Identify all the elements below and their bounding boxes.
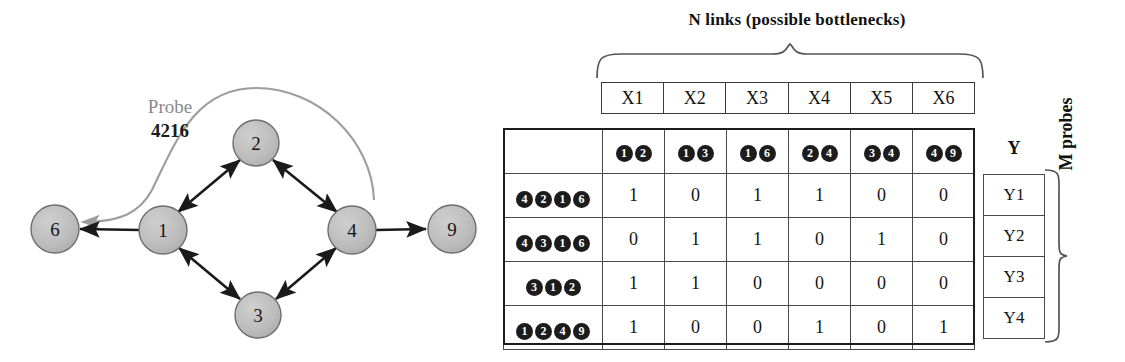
matrix-col-header-1: 12: [603, 129, 665, 174]
table-row: 4216 1 0 1 1 0 0: [504, 174, 975, 218]
y-cell: Y4: [984, 298, 1045, 339]
circled-number: 3: [535, 235, 552, 252]
graph-node-9[interactable]: 9: [428, 205, 476, 253]
m-probes-label: M probes: [1056, 64, 1076, 204]
matrix-cell: 1: [603, 306, 665, 350]
x-header-strip: X1 X2 X3 X4 X5 X6: [601, 82, 975, 114]
circled-number: 1: [554, 191, 571, 208]
graph-node-2-label: 2: [251, 133, 261, 154]
circled-number: 4: [516, 191, 533, 208]
matrix-cell: 0: [665, 174, 727, 218]
y-cell: Y1: [984, 175, 1045, 216]
circled-number: 2: [535, 323, 552, 340]
circled-number: 3: [864, 145, 881, 162]
list-item: Y3: [984, 257, 1045, 298]
network-tomography-figure: 6 1 2 3 4: [0, 0, 1125, 362]
circled-number: 1: [554, 235, 571, 252]
circled-number: 4: [516, 235, 533, 252]
matrix-cell: 0: [603, 218, 665, 262]
x-header-cell-3: X3: [726, 83, 788, 113]
circled-number: 9: [573, 323, 590, 340]
matrix-cell: 0: [913, 262, 975, 306]
table-row: 312 1 1 0 0 0 0: [504, 262, 975, 306]
circled-number: 3: [526, 279, 543, 296]
y-observations-table: Y1 Y2 Y3 Y4: [983, 174, 1045, 339]
matrix-row-label-2: 4316: [504, 218, 603, 262]
network-graph-panel: 6 1 2 3 4: [0, 0, 500, 362]
list-item: Y4: [984, 298, 1045, 339]
x-header-cell-4: X4: [789, 83, 851, 113]
matrix-cell: 0: [789, 262, 851, 306]
graph-node-1-label: 1: [158, 220, 168, 241]
list-item: Y2: [984, 216, 1045, 257]
n-links-title: N links (possible bottlenecks): [597, 10, 997, 30]
circled-number: 2: [635, 145, 652, 162]
matrix-cell: 1: [913, 306, 975, 350]
matrix-cell: 1: [727, 218, 789, 262]
matrix-panel: N links (possible bottlenecks) X1 X2 X3 …: [500, 0, 1125, 362]
matrix-cell: 0: [913, 218, 975, 262]
graph-node-1[interactable]: 1: [139, 206, 187, 254]
matrix-corner-cell: [504, 129, 603, 174]
graph-node-3[interactable]: 3: [235, 292, 281, 338]
matrix-cell: 0: [851, 262, 913, 306]
graph-node-6-label: 6: [50, 219, 60, 240]
list-item: Y1: [984, 175, 1045, 216]
n-links-brace-icon: [595, 42, 985, 80]
table-row: 4316 0 1 1 0 1 0: [504, 218, 975, 262]
matrix-col-header-3: 16: [727, 129, 789, 174]
edge-3-4: [276, 248, 336, 299]
y-cell: Y2: [984, 216, 1045, 257]
matrix-cell: 1: [603, 174, 665, 218]
matrix-col-header-2: 13: [665, 129, 727, 174]
matrix-cell: 1: [851, 218, 913, 262]
probe-path: [82, 88, 374, 222]
matrix-cell: 1: [665, 218, 727, 262]
y-column-title: Y: [983, 138, 1045, 159]
y-cell: Y3: [984, 257, 1045, 298]
matrix-row-label-4: 1249: [504, 306, 603, 350]
x-header-cell-6: X6: [913, 83, 974, 113]
probe-id-label: 4216: [151, 120, 189, 141]
matrix-cell: 0: [727, 306, 789, 350]
matrix-col-header-5: 34: [851, 129, 913, 174]
graph-node-4[interactable]: 4: [328, 206, 376, 254]
edge-1-2: [178, 160, 240, 212]
edge-2-4: [273, 160, 337, 212]
matrix-cell: 1: [603, 262, 665, 306]
matrix-cell: 0: [789, 218, 851, 262]
table-row: 1249 1 0 0 1 0 1: [504, 306, 975, 350]
circled-number: 1: [740, 145, 757, 162]
circled-number: 4: [554, 323, 571, 340]
probe-label: Probe: [148, 96, 192, 117]
matrix-cell: 1: [665, 262, 727, 306]
routing-matrix-table: 12 13 16 24 34 49 4216 1 0 1 1 0 0: [503, 128, 975, 350]
matrix-cell: 0: [851, 306, 913, 350]
matrix-cell: 0: [665, 306, 727, 350]
circled-number: 2: [564, 279, 581, 296]
circled-number: 6: [759, 145, 776, 162]
circled-number: 6: [573, 235, 590, 252]
matrix-row-label-1: 4216: [504, 174, 603, 218]
circled-number: 1: [678, 145, 695, 162]
x-header-cell-1: X1: [602, 83, 664, 113]
circled-number: 4: [883, 145, 900, 162]
edge-1-3: [179, 248, 240, 299]
edge-1-6: [80, 229, 140, 230]
graph-node-6[interactable]: 6: [31, 205, 79, 253]
circled-number: 4: [926, 145, 943, 162]
x-header-cell-2: X2: [664, 83, 726, 113]
graph-node-3-label: 3: [253, 305, 263, 326]
circled-number: 9: [945, 145, 962, 162]
matrix-header-row: 12 13 16 24 34 49: [504, 129, 975, 174]
circled-number: 1: [516, 323, 533, 340]
matrix-cell: 1: [789, 174, 851, 218]
matrix-col-header-4: 24: [789, 129, 851, 174]
edge-4-9: [376, 229, 426, 230]
matrix-col-header-6: 49: [913, 129, 975, 174]
circled-number: 2: [802, 145, 819, 162]
circled-number: 3: [697, 145, 714, 162]
matrix-cell: 1: [727, 174, 789, 218]
circled-number: 6: [573, 191, 590, 208]
graph-node-2[interactable]: 2: [233, 120, 279, 166]
